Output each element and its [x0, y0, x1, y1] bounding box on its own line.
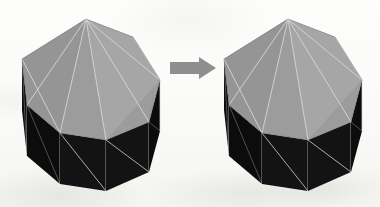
left-polyhedron: [22, 19, 160, 191]
right-arrow-icon: [170, 57, 216, 79]
arrow-glyph: [170, 57, 216, 79]
polyhedron-figure: [0, 0, 380, 207]
figure-canvas: [0, 0, 380, 207]
right-polyhedron: [224, 19, 362, 191]
